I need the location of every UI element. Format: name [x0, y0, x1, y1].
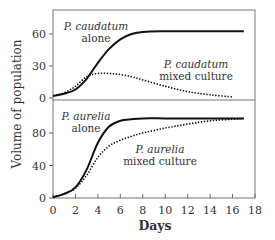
x-tick-label: 0 [50, 204, 57, 217]
label-aurelia-alone-2: alone [72, 122, 101, 134]
label-caudatum-mixed: P. caudatum [163, 58, 228, 70]
x-tick-label: 4 [94, 204, 101, 217]
x-axis-ticks: 024681012141618 [50, 194, 263, 217]
y-tick-label: 80 [32, 127, 46, 140]
label-caudatum-alone: P. caudatum [63, 20, 128, 32]
y-tick-label: 0 [39, 192, 46, 205]
x-tick-label: 6 [117, 204, 124, 217]
x-tick-label: 16 [226, 204, 240, 217]
population-chart: 0306004080 024681012141618 P. caudatum a… [0, 0, 275, 240]
label-caudatum-alone-2: alone [82, 32, 111, 44]
label-aurelia-alone: P. aurelia [61, 110, 111, 122]
x-tick-label: 8 [139, 204, 146, 217]
y-axis-label: Volume of population [10, 39, 24, 169]
x-tick-label: 12 [181, 204, 195, 217]
label-aurelia-mixed: P. aurelia [135, 143, 185, 155]
x-tick-label: 2 [72, 204, 79, 217]
y-tick-label: 0 [39, 92, 46, 105]
y-tick-label: 60 [32, 28, 46, 41]
label-caudatum-mixed-2: mixed culture [159, 70, 233, 82]
x-tick-label: 18 [248, 204, 262, 217]
y-axis-ticks: 0306004080 [32, 28, 53, 205]
x-tick-label: 14 [203, 204, 217, 217]
y-tick-label: 40 [32, 160, 46, 173]
y-tick-label: 30 [32, 60, 46, 73]
x-axis-label: Days [138, 218, 171, 233]
x-tick-label: 10 [158, 204, 172, 217]
label-aurelia-mixed-2: mixed culture [123, 155, 197, 167]
